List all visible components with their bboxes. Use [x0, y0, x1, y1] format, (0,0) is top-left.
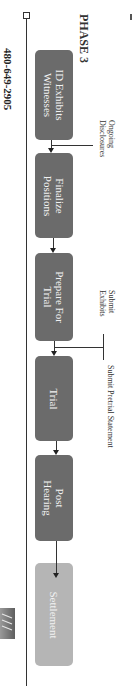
arrow-down-icon [48, 148, 54, 153]
annotation-submit-pretrial-statement: Submit Pretrial Statement [106, 365, 115, 448]
step-prepare-for-trial: Prepare For Trial [35, 253, 73, 341]
arrow-down-icon [51, 351, 57, 356]
step-finalize-positions: Finalize Positions [35, 153, 73, 238]
border-marker-icon [23, 12, 30, 19]
step-id-exhibits-witnesses: ID Exhibits Witnesses [35, 50, 73, 140]
annotation-connector-exhibits [54, 347, 104, 348]
arrow-down-icon [50, 248, 56, 253]
step-label: Settlement [48, 591, 60, 638]
annotation-submit-exhibits: Submit Exhibits [98, 290, 116, 317]
connector-5-6 [56, 541, 57, 573]
annotation-ongoing-disclosures: Ongoing Disclosures [98, 120, 116, 157]
corner-mark [130, 14, 132, 20]
annotation-connector-disclosures [51, 145, 93, 146]
arrow-down-icon [53, 573, 59, 578]
step-label: Prepare For Trial [42, 271, 66, 323]
step-label: Post Hearing [42, 480, 66, 515]
page-title: PHASE 3 [76, 14, 91, 63]
law-firm-logo-icon [0, 608, 15, 639]
page-border-line [26, 16, 27, 686]
step-trial: Trial [35, 356, 73, 441]
phone-number: 480-649-2905 [2, 48, 14, 110]
step-label: Trial [48, 388, 60, 409]
arrow-down-icon [53, 450, 59, 455]
step-label: ID Exhibits Witnesses [42, 69, 66, 120]
step-label: Finalize Positions [42, 175, 66, 215]
step-post-hearing: Post Hearing [35, 455, 73, 541]
logo-mark-icon [0, 608, 15, 639]
annotation-tbar [103, 334, 104, 360]
step-settlement: Settlement [35, 563, 73, 666]
